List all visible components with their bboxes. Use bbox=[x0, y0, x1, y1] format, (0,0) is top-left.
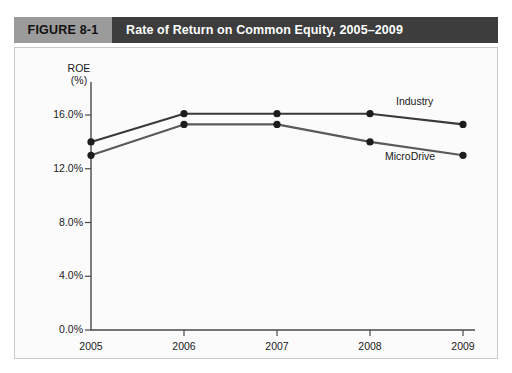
x-axis-tick-label: 2006 bbox=[159, 340, 209, 352]
series-label-microdrive: MicroDrive bbox=[385, 150, 435, 162]
x-axis-tick-label: 2009 bbox=[438, 340, 488, 352]
y-axis-title-line2: (%) bbox=[71, 74, 87, 86]
y-axis-tick-label: 4.0% bbox=[31, 269, 83, 281]
y-axis-title: ROE (%) bbox=[56, 62, 102, 86]
y-axis-tick-label: 16.0% bbox=[31, 108, 83, 120]
figure-number-label: FIGURE 8-1 bbox=[14, 17, 112, 43]
y-axis-tick-label: 0.0% bbox=[31, 323, 83, 335]
x-axis-tick-label: 2007 bbox=[252, 340, 302, 352]
x-axis-tick-label: 2005 bbox=[66, 340, 116, 352]
x-axis-tick-label: 2008 bbox=[345, 340, 395, 352]
figure-title: Rate of Return on Common Equity, 2005–20… bbox=[112, 17, 498, 43]
series-label-industry: Industry bbox=[396, 95, 433, 107]
figure-container: FIGURE 8-1 Rate of Return on Common Equi… bbox=[0, 0, 512, 373]
y-axis-tick-label: 8.0% bbox=[31, 216, 83, 228]
y-axis-tick-label: 12.0% bbox=[31, 162, 83, 174]
y-axis-title-line1: ROE bbox=[68, 62, 91, 74]
figure-header: FIGURE 8-1 Rate of Return on Common Equi… bbox=[14, 17, 498, 43]
